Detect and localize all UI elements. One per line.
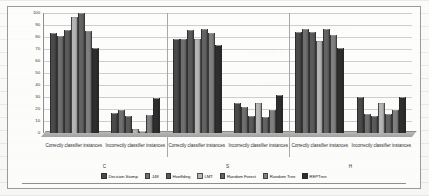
legend-item[interactable]: Random Forest bbox=[220, 173, 256, 179]
bar-top-face bbox=[181, 38, 186, 40]
x-axis-labels: Correctly classifier instancesIncorrectl… bbox=[43, 143, 412, 165]
bar-top-face bbox=[365, 113, 370, 115]
bar[interactable] bbox=[125, 116, 132, 133]
x-axis-label: Correctly classifier instances bbox=[166, 143, 228, 165]
legend-swatch-icon bbox=[220, 173, 226, 179]
bar[interactable] bbox=[392, 110, 399, 133]
legend-label: J48 bbox=[152, 174, 159, 179]
bar-group bbox=[44, 13, 105, 133]
bar[interactable] bbox=[323, 29, 330, 133]
bar[interactable] bbox=[118, 110, 125, 133]
bar[interactable] bbox=[255, 103, 262, 133]
bar[interactable] bbox=[234, 103, 241, 133]
bar-slot bbox=[153, 13, 160, 133]
bar[interactable] bbox=[248, 116, 255, 133]
legend-item[interactable]: Decision Stump bbox=[101, 173, 137, 179]
bar[interactable] bbox=[173, 39, 180, 133]
y-axis-tick: 30 bbox=[35, 95, 40, 99]
legend-label: Random Forest bbox=[227, 174, 256, 179]
x-axis-label: Correctly classifier instances bbox=[289, 143, 351, 165]
bar[interactable] bbox=[50, 33, 57, 133]
bar-slot bbox=[364, 13, 371, 133]
bar[interactable] bbox=[309, 32, 316, 133]
legend-item[interactable]: Hoeffding bbox=[166, 173, 191, 179]
bar-top-face bbox=[263, 116, 268, 118]
bar[interactable] bbox=[146, 115, 153, 133]
bar-slot bbox=[399, 13, 406, 133]
legend-label: REPTree bbox=[309, 174, 326, 179]
bar[interactable] bbox=[111, 113, 118, 133]
bar[interactable] bbox=[71, 17, 78, 133]
bar-top-face bbox=[72, 16, 77, 18]
legend-swatch-icon bbox=[166, 173, 172, 179]
bar[interactable] bbox=[187, 30, 194, 133]
bar[interactable] bbox=[330, 35, 337, 133]
bar[interactable] bbox=[78, 13, 85, 133]
bar-slot bbox=[215, 13, 222, 133]
y-axis: 100 90 80 70 60 50 40 30 20 10 0 bbox=[22, 13, 42, 133]
bar[interactable] bbox=[276, 95, 283, 133]
bar[interactable] bbox=[57, 36, 64, 133]
bar-slot bbox=[269, 13, 276, 133]
chart-container: 100 90 80 70 60 50 40 30 20 10 0 bbox=[7, 6, 421, 189]
legend-item[interactable]: REPTree bbox=[302, 173, 326, 179]
bar[interactable] bbox=[378, 103, 385, 133]
bar[interactable] bbox=[316, 41, 323, 133]
bar[interactable] bbox=[139, 132, 146, 133]
bar[interactable] bbox=[357, 97, 364, 133]
bar[interactable] bbox=[64, 30, 71, 133]
bar-top-face bbox=[303, 28, 308, 30]
legend-item[interactable]: Random Tree bbox=[263, 173, 296, 179]
bar[interactable] bbox=[399, 97, 406, 133]
bar-top-face bbox=[400, 96, 405, 98]
bar[interactable] bbox=[371, 116, 378, 133]
legend-swatch-icon bbox=[302, 173, 308, 179]
y-axis-tick: 70 bbox=[35, 47, 40, 51]
bar[interactable] bbox=[85, 31, 92, 133]
bar-slot bbox=[111, 13, 118, 133]
bar[interactable] bbox=[295, 32, 302, 133]
bar-slot bbox=[316, 13, 323, 133]
bar-top-face bbox=[310, 31, 315, 33]
bar-group bbox=[167, 13, 228, 133]
bar-top-face bbox=[242, 106, 247, 108]
bar-top-face bbox=[195, 38, 200, 40]
bar[interactable] bbox=[208, 33, 215, 133]
bar-slot bbox=[330, 13, 337, 133]
bar[interactable] bbox=[269, 110, 276, 133]
bar[interactable] bbox=[302, 29, 309, 133]
bar[interactable] bbox=[201, 29, 208, 133]
bar-top-face bbox=[393, 109, 398, 111]
bar[interactable] bbox=[132, 129, 139, 133]
bar-group bbox=[105, 13, 166, 133]
bar-slot bbox=[392, 13, 399, 133]
bar[interactable] bbox=[262, 117, 269, 133]
legend-item[interactable]: LMT bbox=[197, 173, 212, 179]
bar[interactable] bbox=[215, 45, 222, 133]
legend-swatch-icon bbox=[101, 173, 107, 179]
bar[interactable] bbox=[385, 114, 392, 133]
bar-slot bbox=[371, 13, 378, 133]
legend-label: Hoeffding bbox=[173, 174, 191, 179]
bar-top-face bbox=[256, 102, 261, 104]
legend-underline bbox=[22, 183, 406, 184]
bar-slot bbox=[201, 13, 208, 133]
bar[interactable] bbox=[364, 114, 371, 133]
bar-top-face bbox=[112, 112, 117, 114]
bar-top-face bbox=[386, 113, 391, 115]
bar-slot bbox=[85, 13, 92, 133]
bar[interactable] bbox=[194, 39, 201, 133]
legend-label: LMT bbox=[204, 174, 212, 179]
bar-top-face bbox=[133, 128, 138, 130]
bar[interactable] bbox=[337, 48, 344, 133]
legend-item[interactable]: J48 bbox=[145, 173, 159, 179]
bar[interactable] bbox=[153, 98, 160, 133]
y-axis-tick: 40 bbox=[35, 83, 40, 87]
bar[interactable] bbox=[180, 39, 187, 133]
bar-slot bbox=[276, 13, 283, 133]
bar-slot bbox=[118, 13, 125, 133]
bar[interactable] bbox=[241, 107, 248, 133]
bar-top-face bbox=[372, 115, 377, 117]
bar[interactable] bbox=[92, 48, 99, 133]
bar-slot bbox=[378, 13, 385, 133]
